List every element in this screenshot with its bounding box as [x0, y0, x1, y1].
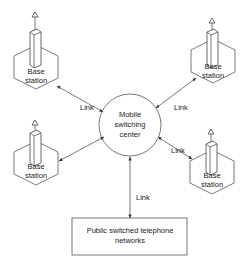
msc-label-line-1: Mobile — [119, 110, 141, 119]
base-station-label-line-1: Base — [27, 67, 44, 76]
base-station-label-line-2: station — [25, 171, 47, 180]
link-label-top-left: Link — [80, 103, 94, 112]
base-station-label-line-1: Base — [203, 171, 220, 180]
base-station-bottom-left: Base station — [14, 120, 58, 185]
base-station-label-line-2: station — [202, 71, 224, 80]
base-station-top-left: Base station — [14, 12, 58, 89]
network-diagram: Link Link Link Link Mobile switching cen… — [0, 0, 249, 267]
msc-label-line-3: center — [120, 130, 141, 139]
base-station-label-line-2: station — [25, 76, 47, 85]
pstn-label-line-2: networks — [115, 236, 145, 245]
link-label-bottom-right: Link — [171, 146, 185, 155]
base-station-bottom-right: Base station — [190, 129, 234, 194]
antenna-tower-icon — [207, 18, 218, 68]
antenna-tower-icon — [30, 12, 41, 68]
link-label-top-right: Link — [174, 103, 188, 112]
base-station-label-line-1: Base — [204, 62, 221, 71]
msc-label-line-2: switching — [115, 120, 146, 129]
pstn-label-line-1: Public switched telephone — [87, 226, 174, 235]
pstn-box: Public switched telephone networks — [72, 218, 187, 255]
base-station-top-right: Base station — [191, 18, 235, 83]
base-station-label-line-1: Base — [27, 162, 44, 171]
link-label-pstn: Link — [136, 193, 150, 202]
antenna-tower-icon — [206, 129, 217, 175]
link-bottom-left — [59, 137, 104, 161]
antenna-tower-icon — [30, 120, 41, 166]
base-station-label-line-2: station — [201, 180, 223, 189]
mobile-switching-center: Mobile switching center — [99, 94, 161, 156]
